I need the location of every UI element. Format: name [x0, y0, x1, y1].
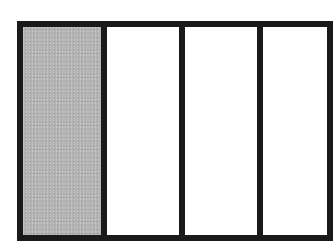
- part-3-unshaded: [179, 27, 257, 235]
- part-2-unshaded: [101, 27, 179, 235]
- fraction-rectangle: [17, 21, 333, 241]
- part-1-shaded: [23, 27, 101, 235]
- part-4-unshaded: [257, 27, 327, 235]
